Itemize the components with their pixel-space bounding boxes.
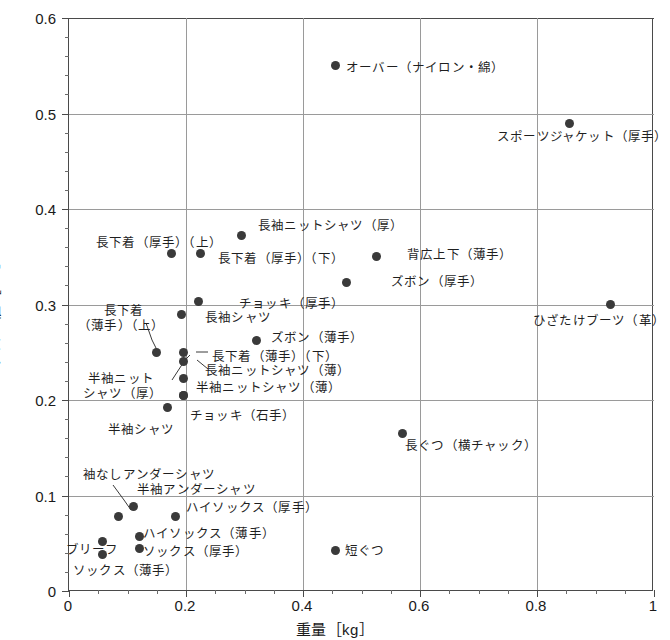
point-label-half-knit-thin: 半袖ニットシャツ（薄）: [196, 381, 341, 396]
y-axis-minor-tick: [65, 266, 69, 267]
x-axis-minor-tick: [508, 590, 509, 594]
x-axis-tick: [69, 590, 70, 597]
y-tick-label: 0.1: [0, 487, 56, 504]
y-tick-label: 0: [0, 583, 56, 600]
y-axis-minor-tick: [65, 324, 69, 325]
data-point: [372, 252, 381, 261]
point-label-nagashitagi-thin-upper-line1: 長下着: [104, 304, 144, 319]
point-label-nagashitagi-thin-lower: 長下着（薄手）（下）: [212, 350, 338, 365]
point-label-over: オーバー（ナイロン・綿）: [346, 61, 504, 76]
y-axis-tick: [62, 209, 69, 210]
x-axis-tick: [420, 590, 421, 597]
y-axis-tick: [62, 400, 69, 401]
y-tick-label: 0.5: [0, 105, 56, 122]
data-point: [331, 61, 340, 70]
point-label-trousers-thick: ズボン（厚手）: [391, 275, 483, 290]
plot-frame-top: [69, 18, 654, 19]
y-axis-minor-tick: [65, 152, 69, 153]
x-axis-minor-tick: [596, 590, 597, 594]
y-axis-title: クロー値［clo］: [0, 254, 3, 368]
x-tick-label: 0.4: [292, 597, 313, 614]
y-axis-minor-tick: [65, 190, 69, 191]
y-tick-label: 0.6: [0, 10, 56, 27]
data-point: [331, 546, 340, 555]
y-axis-minor-tick: [65, 133, 69, 134]
point-label-socks-thick: ソックス（厚手）: [143, 545, 249, 560]
y-axis-minor-tick: [65, 247, 69, 248]
y-axis-minor-tick: [65, 419, 69, 420]
data-point: [398, 429, 407, 438]
y-axis-minor-tick: [65, 285, 69, 286]
y-axis-minor-tick: [65, 515, 69, 516]
point-label-nagashitagi-thin-upper-line2: （薄手）（上）: [78, 319, 164, 334]
point-label-half-undershirt: 半袖アンダーシャツ: [137, 483, 256, 498]
y-axis-minor-tick: [65, 94, 69, 95]
point-label-briefs: ブリーフ: [66, 543, 118, 558]
x-axis-minor-tick: [215, 590, 216, 594]
point-label-long-knit-thick: 長袖ニットシャツ（厚）: [258, 219, 403, 234]
data-point: [179, 348, 188, 357]
x-axis-tick: [186, 590, 187, 597]
point-label-sleeveless-undershirt: 袖なしアンダーシャツ: [83, 468, 215, 483]
scatter-chart-figure: 0.6 0.5 0.4 0.3 0.2 0.1 0 0 0.2 0.4 0.6 …: [0, 0, 670, 640]
y-axis-tick: [62, 496, 69, 497]
y-axis-minor-tick: [65, 572, 69, 573]
x-tick-label: 0: [64, 597, 72, 614]
point-label-long-boots: 長ぐつ（横チャック）: [405, 439, 537, 454]
data-point: [342, 278, 351, 287]
point-label-half-knit-thick-line1: 半袖ニット: [88, 372, 154, 387]
y-axis-minor-tick: [65, 438, 69, 439]
data-point: [114, 512, 123, 521]
x-axis-tick: [537, 590, 538, 597]
y-axis-minor-tick: [65, 381, 69, 382]
x-axis-minor-tick: [391, 590, 392, 594]
point-label-high-socks-thin: ハイソックス（薄手）: [143, 527, 275, 542]
y-axis-minor-tick: [65, 37, 69, 38]
point-label-long-sleeve-shirt: 長袖シャツ: [205, 311, 271, 326]
y-axis-minor-tick: [65, 171, 69, 172]
y-axis-minor-tick: [65, 457, 69, 458]
data-point: [177, 310, 186, 319]
data-point: [163, 403, 172, 412]
y-axis-minor-tick: [65, 75, 69, 76]
x-tick-label: 0.2: [175, 597, 196, 614]
data-point: [129, 502, 138, 511]
x-axis-minor-tick: [157, 590, 158, 594]
x-tick-label: 1: [649, 597, 657, 614]
x-axis-minor-tick: [274, 590, 275, 594]
y-axis-minor-tick: [65, 56, 69, 57]
y-axis-minor-tick: [65, 343, 69, 344]
point-label-half-knit-thick-line2: シャツ（厚）: [83, 387, 162, 402]
x-axis-tick: [654, 590, 655, 597]
x-axis-minor-tick: [566, 590, 567, 594]
point-label-half-sleeve-shirt: 半袖シャツ: [108, 423, 174, 438]
x-axis-minor-tick: [625, 590, 626, 594]
x-axis-minor-tick: [128, 590, 129, 594]
data-point: [252, 336, 261, 345]
x-tick-label: 0.6: [409, 597, 430, 614]
gridline-horizontal: [69, 114, 654, 115]
y-axis-tick: [62, 114, 69, 115]
x-axis-minor-tick: [362, 590, 363, 594]
point-label-suit-thin: 背広上下（薄手）: [407, 248, 513, 263]
x-axis-minor-tick: [98, 590, 99, 594]
y-tick-label: 0.4: [0, 201, 56, 218]
y-axis-minor-tick: [65, 534, 69, 535]
y-axis-tick: [62, 305, 69, 306]
y-tick-label: 0.2: [0, 392, 56, 409]
y-axis-tick: [62, 591, 69, 592]
data-point: [152, 348, 161, 357]
point-label-nagashitagi-thick-upper: 長下着（厚手）（上）: [96, 236, 222, 251]
x-axis-tick: [303, 590, 304, 597]
y-axis-minor-tick: [65, 362, 69, 363]
point-label-vest-stone: チョッキ（石手）: [190, 409, 296, 424]
y-axis-minor-tick: [65, 228, 69, 229]
plot-area: [68, 18, 653, 591]
point-label-knee-boots: ひざたけブーツ（革）: [533, 314, 665, 329]
gridline-horizontal: [69, 305, 654, 306]
point-label-socks-thin: ソックス（薄手）: [73, 564, 179, 579]
x-axis-minor-tick: [332, 590, 333, 594]
point-label-long-knit-thin: 長袖ニットシャツ（薄）: [205, 364, 350, 379]
x-axis-minor-tick: [245, 590, 246, 594]
data-point: [171, 512, 180, 521]
